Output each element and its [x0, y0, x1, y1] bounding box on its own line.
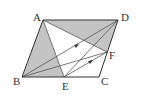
- label-d: D: [121, 11, 129, 23]
- arrow-mark-ef: [88, 60, 93, 64]
- shaded-triangle-abe: [22, 20, 64, 77]
- label-a: A: [33, 11, 41, 23]
- label-b: B: [13, 75, 20, 87]
- parallelogram-figure: A D B E C F: [0, 0, 143, 96]
- shaded-triangle-adf: [43, 20, 118, 52]
- label-e: E: [62, 80, 69, 92]
- label-c: C: [101, 75, 108, 87]
- arrow-mark-bd: [74, 44, 79, 48]
- label-f: F: [109, 49, 115, 61]
